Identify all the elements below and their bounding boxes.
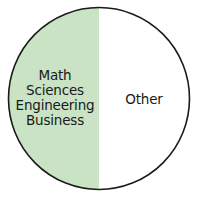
slice-label-line: Other	[112, 92, 176, 107]
slice-label-line: Sciences	[10, 83, 100, 98]
slice-label-stem: Math Sciences Engineering Business	[10, 68, 100, 128]
slice-label-line: Engineering	[10, 98, 100, 113]
slice-label-line: Business	[10, 113, 100, 128]
slice-label-other: Other	[112, 92, 176, 107]
slice-label-line: Math	[10, 68, 100, 83]
